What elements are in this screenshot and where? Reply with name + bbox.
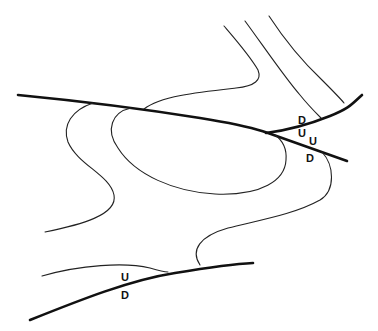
contour-right-s [196, 152, 331, 265]
label-upper-branch-u: U [298, 127, 306, 139]
contour-upper-1 [144, 26, 259, 109]
label-bottom-fault-u: U [121, 271, 129, 283]
contour-left-s [45, 103, 114, 232]
fault-diagram: D U U D U D [0, 0, 378, 331]
label-upper-branch-d: D [298, 114, 306, 126]
upper-fault-branch [266, 95, 362, 133]
label-bottom-fault-d: D [121, 289, 129, 301]
label-lower-branch-u: U [309, 135, 317, 147]
contour-upper-3 [269, 16, 344, 103]
label-lower-branch-d: D [306, 152, 314, 164]
contour-bottom [42, 265, 168, 276]
bottom-fault-line [30, 263, 253, 320]
contour-oval [111, 108, 286, 194]
